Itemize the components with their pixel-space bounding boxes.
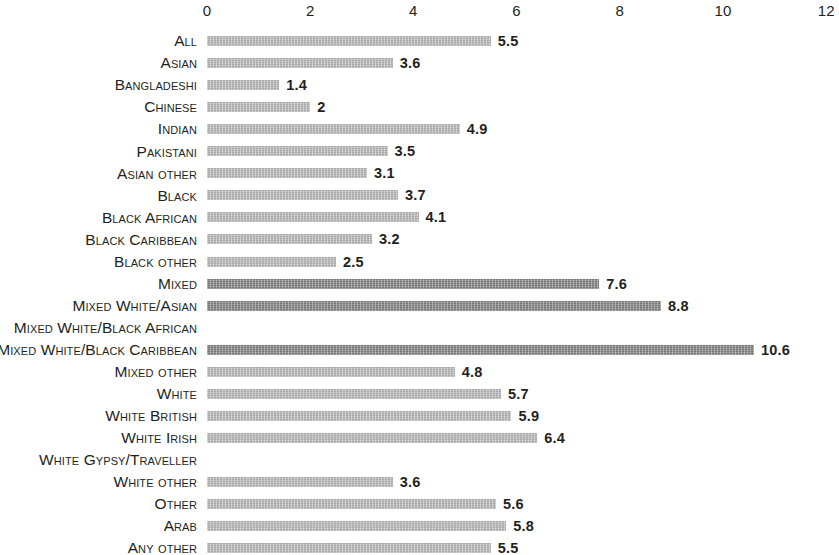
bar-row: Mixed White/Black African (0, 317, 839, 339)
bar-row: Asian3.6 (0, 52, 839, 74)
bar (207, 190, 398, 200)
bar-value-label: 4.8 (462, 361, 483, 383)
category-label: All (0, 30, 197, 52)
category-label: Mixed White/Asian (0, 295, 197, 317)
bar (207, 477, 393, 487)
bar (207, 168, 367, 178)
bar (207, 301, 661, 311)
bar-value-label: 7.6 (606, 273, 627, 295)
bar-track: 3.6 (207, 471, 839, 493)
category-label: Other (0, 493, 197, 515)
bar-track: 3.2 (207, 228, 839, 250)
bar-value-label: 6.4 (544, 427, 565, 449)
bar (207, 36, 491, 46)
bar-value-label: 4.9 (467, 118, 488, 140)
bar-track: 2 (207, 96, 839, 118)
category-label: White Gypsy/Traveller (0, 449, 197, 471)
bar-track: 5.6 (207, 493, 839, 515)
x-axis-tick: 8 (616, 2, 625, 19)
bar-value-label: 5.8 (513, 515, 534, 537)
bar (207, 499, 496, 509)
bar-value-label: 3.5 (395, 140, 416, 162)
bar-row: Indian4.9 (0, 118, 839, 140)
x-axis-tick: 10 (714, 2, 731, 19)
bar (207, 58, 393, 68)
bar-row: White Irish6.4 (0, 427, 839, 449)
category-label: Bangladeshi (0, 74, 197, 96)
bar-value-label: 4.1 (426, 206, 447, 228)
bar-track: 3.7 (207, 184, 839, 206)
bar-value-label: 1.4 (286, 74, 307, 96)
bar-track: 2.5 (207, 251, 839, 273)
bar-row: White5.7 (0, 383, 839, 405)
bar (207, 124, 460, 134)
bar-row: Chinese2 (0, 96, 839, 118)
bar-track: 6.4 (207, 427, 839, 449)
bar-row: Other5.6 (0, 493, 839, 515)
bar-value-label: 3.1 (374, 162, 395, 184)
bar (207, 367, 455, 377)
bar-row: White British5.9 (0, 405, 839, 427)
bar-track (207, 317, 839, 339)
x-axis-tick: 0 (203, 2, 212, 19)
x-axis: 024681012 (0, 0, 839, 28)
bar (207, 257, 336, 267)
bar-track: 5.7 (207, 383, 839, 405)
category-label: Mixed (0, 273, 197, 295)
bar-row: White other3.6 (0, 471, 839, 493)
bar-track: 8.8 (207, 295, 839, 317)
bar-value-label: 10.6 (761, 339, 790, 361)
bar-track: 5.8 (207, 515, 839, 537)
bar-row: All5.5 (0, 30, 839, 52)
bar-row: Mixed other4.8 (0, 361, 839, 383)
category-label: White Irish (0, 427, 197, 449)
bar-row: Black other2.5 (0, 251, 839, 273)
category-label: Mixed other (0, 361, 197, 383)
category-label: Asian other (0, 162, 197, 184)
bar-track: 3.6 (207, 52, 839, 74)
bar (207, 411, 511, 421)
category-label: White other (0, 471, 197, 493)
bar-track (207, 449, 839, 471)
category-label: Mixed White/Black Caribbean (0, 339, 197, 361)
plot-area: All5.5Asian3.6Bangladeshi1.4Chinese2Indi… (0, 28, 839, 555)
category-label: White (0, 383, 197, 405)
bar-value-label: 5.6 (503, 493, 524, 515)
bar-value-label: 2.5 (343, 251, 364, 273)
bar (207, 146, 388, 156)
bar-row: Arab5.8 (0, 515, 839, 537)
bar-value-label: 8.8 (668, 295, 689, 317)
bar-track: 1.4 (207, 74, 839, 96)
bar-value-label: 5.5 (498, 537, 519, 555)
category-label: Pakistani (0, 140, 197, 162)
bar-track: 5.5 (207, 30, 839, 52)
bar-value-label: 3.6 (400, 471, 421, 493)
bar-row: Bangladeshi1.4 (0, 74, 839, 96)
bar (207, 389, 501, 399)
x-axis-tick: 6 (512, 2, 521, 19)
category-label: Black African (0, 206, 197, 228)
bar (207, 102, 310, 112)
category-label: Black (0, 184, 197, 206)
bar-row: Black African4.1 (0, 206, 839, 228)
category-label: Any other (0, 537, 197, 555)
bar-value-label: 3.7 (405, 184, 426, 206)
bar (207, 521, 506, 531)
bar-track: 3.1 (207, 162, 839, 184)
bar (207, 433, 537, 443)
bar-row: Mixed7.6 (0, 273, 839, 295)
category-label: Black other (0, 251, 197, 273)
bar-track: 5.9 (207, 405, 839, 427)
bar-track: 4.1 (207, 206, 839, 228)
category-label: White British (0, 405, 197, 427)
bar-row: Asian other3.1 (0, 162, 839, 184)
bar-value-label: 5.5 (498, 30, 519, 52)
bar (207, 234, 372, 244)
category-label: Black Caribbean (0, 228, 197, 250)
bar-row: Mixed White/Black Caribbean10.6 (0, 339, 839, 361)
bar (207, 345, 754, 355)
bar-row: Any other5.5 (0, 537, 839, 555)
bar (207, 212, 419, 222)
bar-row: Mixed White/Asian8.8 (0, 295, 839, 317)
bar (207, 279, 599, 289)
